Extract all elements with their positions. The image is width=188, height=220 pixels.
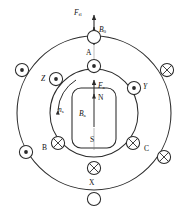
label-speed: ns xyxy=(58,106,64,114)
label-phase-z: Z xyxy=(41,75,45,83)
conductor-phase-a xyxy=(87,59,100,72)
conductor-phase-y xyxy=(127,81,140,94)
conductor-outer-upper-right xyxy=(160,63,173,76)
conductor-outer-upper-left xyxy=(15,63,28,76)
label-phase-c: C xyxy=(144,145,149,153)
label-pole-north: N xyxy=(98,94,103,102)
conductor-outer-bottom xyxy=(87,192,100,205)
label-flux-armature: Ba xyxy=(79,110,86,118)
conductor-phase-b xyxy=(51,136,64,149)
label-phase-x: X xyxy=(89,179,94,187)
machine-cross-section-diagram xyxy=(0,0,188,220)
conductor-outer-lower-left xyxy=(19,145,32,158)
label-phase-a: A xyxy=(86,49,91,57)
label-force-top: Ffl xyxy=(74,9,82,17)
conductor-outer-lower-right xyxy=(157,150,170,163)
figure-canvas: Ffl B0 A Fa N Ba S ns Z Y B C X xyxy=(0,0,188,220)
label-force-armature: Fa xyxy=(98,82,105,90)
conductor-phase-c xyxy=(126,136,139,149)
conductor-phase-z xyxy=(49,72,62,85)
label-flux-b0: B0 xyxy=(99,26,106,34)
label-phase-y: Y xyxy=(143,83,147,91)
label-pole-south: S xyxy=(90,136,94,144)
label-phase-b: B xyxy=(42,144,47,152)
conductor-phase-x xyxy=(87,161,100,174)
